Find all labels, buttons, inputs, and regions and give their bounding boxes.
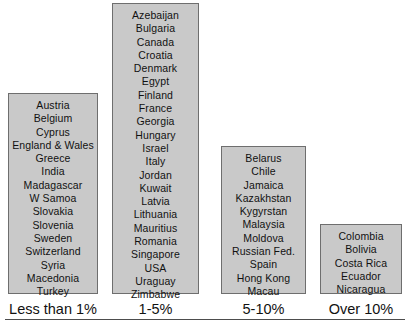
list-item: Mauritius [115, 222, 196, 235]
category-column-1-to-5-percent: Azebaijan Bulgaria Canada Croatia Denmar… [112, 0, 199, 324]
list-item: Romania [115, 235, 196, 248]
category-column-5-to-10-percent: Belarus Chile Jamaica Kazakhstan Kygyrst… [221, 0, 306, 324]
category-box-5-to-10-percent: Belarus Chile Jamaica Kazakhstan Kygyrst… [221, 146, 306, 294]
list-item: Ecuador [323, 270, 399, 283]
list-item: England & Wales [11, 139, 95, 152]
list-item: Egypt [115, 75, 196, 88]
list-item: Turkey [11, 285, 95, 298]
prevalence-grouping-figure: Austria Belgium Cyprus England & Wales G… [0, 0, 410, 324]
category-label-less-than-1-percent: Less than 1% [0, 300, 110, 318]
list-item: Bolivia [323, 243, 399, 256]
list-item: W Samoa [11, 192, 95, 205]
list-item: Macau [224, 285, 303, 298]
list-item: Singapore [115, 248, 196, 261]
list-item: Finland [115, 89, 196, 102]
list-item: Madagascar [11, 179, 95, 192]
category-box-1-to-5-percent: Azebaijan Bulgaria Canada Croatia Denmar… [112, 3, 199, 294]
list-item: Austria [11, 99, 95, 112]
list-item: Russian Fed. [224, 245, 303, 258]
list-item: Nicaragua [323, 283, 399, 296]
list-item: Kuwait [115, 182, 196, 195]
category-label-5-to-10-percent: 5-10% [209, 300, 318, 318]
list-item: Israel [115, 142, 196, 155]
list-item: Denmark [115, 62, 196, 75]
list-item: Greece [11, 152, 95, 165]
list-item: USA [115, 262, 196, 275]
list-item: Chile [224, 165, 303, 178]
list-item: Colombia [323, 230, 399, 243]
list-item: Syria [11, 259, 95, 272]
list-item: Hong Kong [224, 272, 303, 285]
category-column-over-10-percent: Colombia Bolivia Costa Rica Ecuador Nica… [320, 0, 402, 324]
list-item: Azebaijan [115, 9, 196, 22]
list-item: Lithuania [115, 208, 196, 221]
list-item: Cyprus [11, 126, 95, 139]
list-item: Spain [224, 258, 303, 271]
list-item: Georgia [115, 115, 196, 128]
list-item: Canada [115, 36, 196, 49]
list-item: India [11, 165, 95, 178]
list-item: Belgium [11, 112, 95, 125]
list-item: Jamaica [224, 179, 303, 192]
list-item: Kygyrstan [224, 205, 303, 218]
category-column-less-than-1-percent: Austria Belgium Cyprus England & Wales G… [8, 0, 98, 324]
list-item: Switzerland [11, 245, 95, 258]
category-label-over-10-percent: Over 10% [308, 300, 410, 318]
category-box-over-10-percent: Colombia Bolivia Costa Rica Ecuador Nica… [320, 224, 402, 294]
list-item: Costa Rica [323, 257, 399, 270]
list-item: Moldova [224, 232, 303, 245]
list-item: Slovenia [11, 219, 95, 232]
list-item: Jordan [115, 169, 196, 182]
list-item: Sweden [11, 232, 95, 245]
list-item: Latvia [115, 195, 196, 208]
baseline-rule [5, 319, 405, 320]
list-item: Belarus [224, 152, 303, 165]
list-item: Bulgaria [115, 22, 196, 35]
list-item: Malaysia [224, 218, 303, 231]
category-label-1-to-5-percent: 1-5% [100, 300, 211, 318]
list-item: Croatia [115, 49, 196, 62]
list-item: Hungary [115, 129, 196, 142]
list-item: Macedonia [11, 272, 95, 285]
list-item: Uraguay [115, 275, 196, 288]
list-item: Kazakhstan [224, 192, 303, 205]
list-item: France [115, 102, 196, 115]
list-item: Slovakia [11, 205, 95, 218]
list-item: Italy [115, 155, 196, 168]
category-box-less-than-1-percent: Austria Belgium Cyprus England & Wales G… [8, 93, 98, 294]
